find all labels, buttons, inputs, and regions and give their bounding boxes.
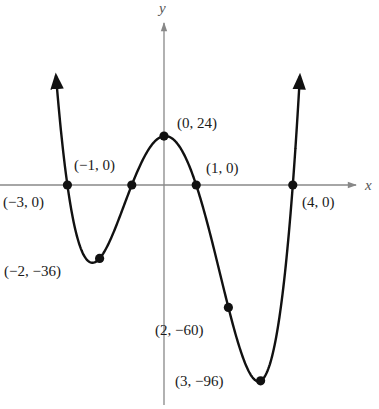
label-root-m3: (−3, 0): [3, 194, 44, 211]
label-root-1: (1, 0): [206, 160, 239, 177]
polynomial-graph: x y (−3, 0) (−2, −36) (−1, 0) (0, 24) (1…: [0, 0, 379, 409]
label-min-3: (3, −96): [175, 373, 223, 390]
data-point: [256, 376, 265, 385]
label-root-m1: (−1, 0): [74, 157, 115, 174]
label-root-4: (4, 0): [302, 194, 335, 211]
data-point: [127, 180, 136, 189]
data-point: [95, 254, 104, 263]
data-point: [63, 180, 72, 189]
label-point-2: (2, −60): [155, 322, 203, 339]
x-axis-label: x: [364, 177, 372, 193]
curve-arrow-right: [295, 76, 300, 149]
data-point: [192, 180, 201, 189]
data-point: [224, 303, 233, 312]
data-point: [288, 180, 297, 189]
y-axis-label: y: [157, 0, 166, 16]
data-point: [159, 131, 168, 140]
label-y-intercept: (0, 24): [177, 115, 217, 132]
label-min-m2: (−2, −36): [4, 263, 61, 280]
